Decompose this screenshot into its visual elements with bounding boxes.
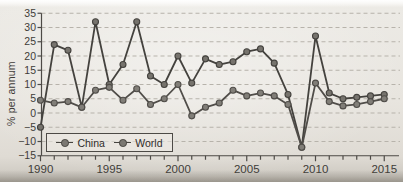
china-marker-1991 <box>51 42 57 48</box>
y-tick-label: 35 <box>24 7 36 19</box>
world-marker-1999 <box>161 96 167 102</box>
legend-label-china: China <box>77 137 104 149</box>
world-marker-2011 <box>326 99 332 105</box>
world-marker-1990 <box>38 97 44 103</box>
china-marker-2008 <box>285 91 291 97</box>
china-marker-2000 <box>175 53 181 59</box>
world-marker-2002 <box>203 104 209 110</box>
y-tick-label: −5 <box>24 121 36 133</box>
world-marker-2012 <box>340 103 346 109</box>
world-marker-2001 <box>189 113 195 119</box>
world-marker-1996 <box>120 97 126 103</box>
world-marker-1998 <box>148 101 154 107</box>
china-marker-1992 <box>65 47 71 53</box>
world-marker-2008 <box>285 101 291 107</box>
chart-canvas: 35302520151050−5−10−15199019952000200520… <box>0 0 403 182</box>
china-marker-2007 <box>271 60 277 66</box>
y-tick-label: 5 <box>30 92 36 104</box>
legend-box: China World <box>46 133 173 152</box>
y-tick-label: 10 <box>24 78 36 90</box>
world-line-marker-icon <box>114 139 131 147</box>
y-tick-label: −15 <box>18 149 36 161</box>
world-marker-2014 <box>368 99 374 105</box>
china-marker-2005 <box>244 49 250 55</box>
world-marker-2009 <box>299 144 305 150</box>
world-marker-1991 <box>51 100 57 106</box>
world-marker-2003 <box>216 100 222 106</box>
world-marker-2004 <box>230 87 236 93</box>
world-marker-2013 <box>354 101 360 107</box>
china-marker-2011 <box>326 90 332 96</box>
china-marker-2006 <box>258 46 264 52</box>
y-tick-label: 0 <box>30 107 36 119</box>
china-marker-2001 <box>189 80 195 86</box>
world-marker-1995 <box>106 84 112 90</box>
china-marker-1996 <box>120 62 126 68</box>
y-tick-label: 15 <box>24 64 36 76</box>
china-marker-2002 <box>203 56 209 62</box>
china-marker-1998 <box>148 73 154 79</box>
china-marker-2004 <box>230 59 236 65</box>
y-tick-label: 25 <box>24 35 36 47</box>
china-marker-2010 <box>313 33 319 39</box>
legend-item-china: China <box>56 137 104 149</box>
world-marker-1997 <box>134 86 140 92</box>
world-marker-2015 <box>381 96 387 102</box>
legend-item-world: World <box>114 137 162 149</box>
legend-label-world: World <box>135 137 162 149</box>
world-marker-2006 <box>258 90 264 96</box>
world-marker-2005 <box>244 93 250 99</box>
world-marker-1994 <box>93 87 99 93</box>
world-marker-1992 <box>65 99 71 105</box>
china-marker-2003 <box>216 62 222 68</box>
world-marker-2000 <box>175 82 181 88</box>
china-marker-1999 <box>161 82 167 88</box>
china-marker-2012 <box>340 96 346 102</box>
y-tick-label: 30 <box>24 21 36 33</box>
china-marker-1990 <box>38 124 44 130</box>
china-line-marker-icon <box>56 139 73 147</box>
world-marker-2007 <box>271 93 277 99</box>
y-tick-label: −10 <box>18 135 36 147</box>
figure: 35302520151050−5−10−15199019952000200520… <box>0 0 403 182</box>
y-tick-label: 20 <box>24 50 36 62</box>
china-marker-1994 <box>93 19 99 25</box>
china-marker-2013 <box>354 94 360 100</box>
china-marker-1997 <box>134 19 140 25</box>
y-axis-title: % per annum <box>5 61 17 126</box>
world-marker-2010 <box>313 80 319 86</box>
bottom-page-shadow <box>0 170 403 182</box>
china-marker-2014 <box>368 93 374 99</box>
world-marker-1993 <box>79 104 85 110</box>
